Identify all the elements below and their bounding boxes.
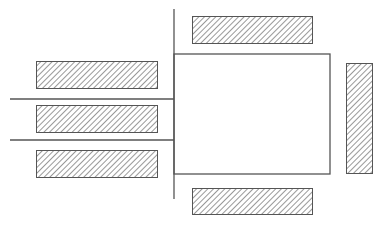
- left-bar-3: [37, 151, 158, 178]
- central-box: [174, 54, 330, 174]
- left-bar-2: [37, 106, 158, 133]
- central-box: [174, 54, 330, 174]
- right-bar: [347, 64, 373, 174]
- hatched-bars: [37, 17, 373, 215]
- diagram-canvas: [0, 0, 382, 227]
- bottom-bar: [193, 189, 313, 215]
- top-bar: [193, 17, 313, 44]
- left-bar-1: [37, 62, 158, 89]
